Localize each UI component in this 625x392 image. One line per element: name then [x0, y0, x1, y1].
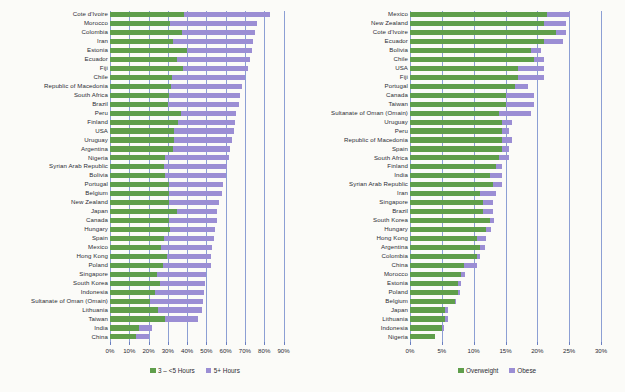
- bar-segment-obese: [531, 48, 541, 53]
- bar-segment-overweight: [410, 209, 483, 214]
- category-label: Uruguay: [384, 119, 408, 125]
- chart-panel-left: Cote d'IvoireMoroccoColombiaIranEstoniaE…: [0, 0, 312, 392]
- bar-segment-obese: [445, 316, 448, 321]
- category-label: Lithuania: [382, 316, 408, 322]
- category-label: Hungary: [84, 226, 108, 232]
- bar-segment-5-hours: [169, 218, 217, 223]
- bar-segment-overweight: [410, 299, 455, 304]
- bar-segment-3-5-hours: [110, 325, 139, 330]
- bar-segment-3-5-hours: [110, 272, 157, 277]
- bar-segment-overweight: [410, 39, 544, 44]
- bar-segment-obese: [455, 299, 457, 304]
- category-label: Poland: [88, 262, 108, 268]
- bar-segment-overweight: [410, 200, 483, 205]
- tick-mark: [284, 342, 285, 345]
- bar-segment-overweight: [410, 182, 493, 187]
- bar-segment-3-5-hours: [110, 155, 165, 160]
- x-tick-label: 5%: [437, 347, 446, 354]
- category-label: Chile: [394, 56, 408, 62]
- bar-segment-obese: [502, 128, 508, 133]
- category-label: Morocco: [384, 271, 408, 277]
- bar-segment-obese: [499, 111, 531, 116]
- category-label: Republic of Macedonia: [44, 83, 108, 89]
- bar-segment-overweight: [410, 155, 499, 160]
- bar-segment-3-5-hours: [110, 173, 165, 178]
- bar-segment-5-hours: [183, 66, 248, 71]
- plot-area-left: [110, 11, 284, 342]
- category-label: South Korea: [373, 217, 408, 223]
- bar-segment-5-hours: [173, 39, 253, 44]
- bar-segment-overweight: [410, 111, 499, 116]
- bar-segment-overweight: [410, 137, 502, 142]
- category-label: South Africa: [74, 92, 108, 98]
- category-label: Estonia: [387, 280, 408, 286]
- gridline: [601, 11, 602, 342]
- bar-segment-obese: [483, 209, 493, 214]
- tick-mark: [601, 342, 602, 345]
- bar-segment-5-hours: [169, 182, 223, 187]
- bar-segment-overweight: [410, 290, 458, 295]
- bar-segment-overweight: [410, 307, 445, 312]
- legend-swatch-icon: [150, 368, 156, 374]
- bar-segment-5-hours: [182, 30, 254, 35]
- bar-segment-5-hours: [155, 290, 204, 295]
- category-label: Morocco: [84, 20, 108, 26]
- category-label: Portugal: [385, 83, 409, 89]
- bar-segment-5-hours: [169, 200, 219, 205]
- category-label: Estonia: [87, 47, 108, 53]
- bar-segment-3-5-hours: [110, 12, 184, 17]
- legend-label: Overweight: [466, 367, 498, 374]
- category-label: Nigeria: [388, 334, 408, 340]
- category-label: Uruguay: [84, 137, 108, 143]
- category-label: Spain: [92, 235, 108, 241]
- category-label: Sultanate of Oman (Omain): [31, 298, 108, 304]
- bar-segment-3-5-hours: [110, 137, 174, 142]
- bar-segment-3-5-hours: [110, 290, 155, 295]
- x-tick-label: 15%: [499, 347, 511, 354]
- bar-segment-obese: [506, 93, 535, 98]
- bar-segment-5-hours: [174, 128, 235, 133]
- category-label: Mexico: [388, 11, 408, 17]
- bar-segment-3-5-hours: [110, 21, 170, 26]
- legend-swatch-icon: [509, 368, 515, 374]
- bar-segment-overweight: [410, 334, 435, 339]
- bar-segment-obese: [458, 290, 460, 295]
- bar-segment-overweight: [410, 272, 461, 277]
- category-label: Cote d'Ivoire: [73, 11, 108, 17]
- bar-segment-overweight: [410, 84, 515, 89]
- category-label: Nigeria: [88, 155, 108, 161]
- bar-segment-5-hours: [167, 254, 211, 259]
- bar-segment-3-5-hours: [110, 254, 167, 259]
- bar-segment-5-hours: [136, 334, 149, 339]
- bar-segment-overweight: [410, 173, 490, 178]
- gridline: [284, 11, 285, 342]
- category-label: South Africa: [374, 155, 408, 161]
- category-label: Hungary: [384, 226, 408, 232]
- bar-segment-obese: [480, 245, 485, 250]
- category-label: Taiwan: [88, 316, 108, 322]
- category-label: Canada: [386, 92, 408, 98]
- category-label: Hong Kong: [77, 253, 108, 259]
- x-tick-label: 0%: [106, 347, 115, 354]
- category-label: India: [394, 172, 408, 178]
- category-label: Spain: [392, 146, 408, 152]
- bar-segment-5-hours: [177, 209, 217, 214]
- bar-segment-obese: [445, 307, 448, 312]
- bar-segment-3-5-hours: [110, 75, 172, 80]
- bar-segment-3-5-hours: [110, 120, 178, 125]
- bar-segment-5-hours: [150, 299, 202, 304]
- category-label: Brazil: [92, 101, 108, 107]
- category-label: Colombia: [381, 253, 408, 259]
- legend-label: 5+ Hours: [214, 367, 240, 374]
- bar-segment-overweight: [410, 325, 442, 330]
- tick-mark: [474, 342, 475, 345]
- bar-segment-3-5-hours: [110, 30, 182, 35]
- bar-segment-5-hours: [169, 191, 222, 196]
- category-label: Iran: [397, 190, 408, 196]
- category-label: Colombia: [81, 29, 108, 35]
- x-tick-label: 30%: [595, 347, 607, 354]
- category-label: New Zealand: [371, 20, 408, 26]
- bar-segment-obese: [502, 137, 512, 142]
- category-label: South Korea: [73, 280, 108, 286]
- bar-segment-overweight: [410, 227, 486, 232]
